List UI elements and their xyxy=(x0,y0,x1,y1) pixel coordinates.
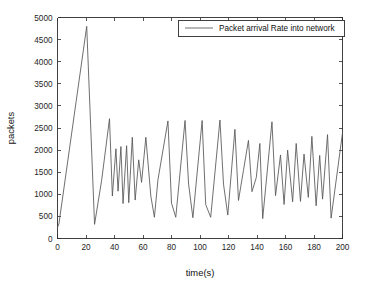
chart-figure: 0500100015002000250030003500400045005000… xyxy=(0,0,369,283)
y-tick-label: 1500 xyxy=(34,168,53,177)
x-tick-label: 80 xyxy=(167,243,177,252)
x-tick-label: 100 xyxy=(193,243,207,252)
x-tick-label: 180 xyxy=(307,243,321,252)
y-tick-label: 4500 xyxy=(34,36,53,45)
x-axis-title: time(s) xyxy=(186,267,215,278)
line-chart: 0500100015002000250030003500400045005000… xyxy=(0,0,369,283)
y-tick-label: 3000 xyxy=(34,102,53,111)
y-tick-label: 2500 xyxy=(34,124,53,133)
y-axis-title: packets xyxy=(5,112,16,145)
y-tick-label: 3500 xyxy=(34,80,53,89)
y-tick-label: 5000 xyxy=(34,14,53,23)
y-tick-label: 4000 xyxy=(34,58,53,67)
x-tick-label: 120 xyxy=(222,243,236,252)
chart-background xyxy=(0,0,369,283)
x-tick-label: 160 xyxy=(279,243,293,252)
y-tick-label: 500 xyxy=(39,212,53,221)
chart-legend: Packet arrival Rate into network xyxy=(178,20,344,36)
y-tick-label: 1000 xyxy=(34,190,53,199)
x-tick-label: 200 xyxy=(336,243,350,252)
x-tick-label: 0 xyxy=(55,243,60,252)
x-tick-label: 140 xyxy=(250,243,264,252)
y-tick-label: 2000 xyxy=(34,146,53,155)
x-tick-label: 60 xyxy=(138,243,148,252)
x-tick-label: 40 xyxy=(110,243,120,252)
y-tick-label: 0 xyxy=(48,235,53,244)
x-tick-label: 20 xyxy=(81,243,91,252)
legend-label: Packet arrival Rate into network xyxy=(219,24,335,33)
